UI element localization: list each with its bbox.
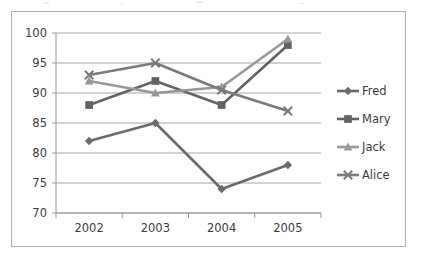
y-axis-tick-labels: 100959085807570 [25,26,56,220]
legend-item-alice[interactable]: Alice [337,168,390,182]
scan-artifact [196,1,203,3]
series-line [89,123,288,189]
x-tick-label: 2003 [141,221,170,235]
y-tick-label: 70 [32,206,47,220]
y-tick-label: 95 [32,56,47,70]
series-fred [85,119,292,193]
gridlines [56,33,321,213]
x-tick-label: 2002 [74,221,103,235]
marker-diamond [344,87,352,95]
series-line [89,45,288,105]
legend-item-fred[interactable]: Fred [337,84,387,98]
line-chart-plot: 100959085807570 2002200320042005 FredMar… [12,12,405,246]
marker-diamond [85,137,93,145]
scan-artifact [120,4,123,5]
marker-square [85,101,93,109]
legend-item-mary[interactable]: Mary [337,112,391,126]
legend-label: Mary [362,112,391,126]
marker-square [218,101,226,109]
x-axis [56,213,321,218]
scan-artifact [44,2,49,4]
x-tick-label: 2004 [207,221,236,235]
legend-item-jack[interactable]: Jack [337,140,386,154]
x-tick-label: 2005 [273,221,302,235]
x-axis-tick-labels: 2002200320042005 [74,221,302,235]
y-tick-label: 100 [25,26,47,40]
series-mary [85,41,291,109]
chart-frame: 100959085807570 2002200320042005 FredMar… [11,11,406,247]
series-line [89,39,288,93]
legend-label: Fred [362,84,387,98]
scan-artifact [300,3,304,4]
series-jack [85,35,293,97]
marker-square [152,77,160,85]
chart-legend: FredMaryJackAlice [337,84,391,182]
y-tick-label: 90 [32,86,47,100]
legend-label: Alice [362,168,390,182]
y-tick-label: 75 [32,176,47,190]
legend-label: Jack [361,140,386,154]
chart-container: 100959085807570 2002200320042005 FredMar… [0,0,421,260]
marker-triangle [283,35,292,43]
y-tick-label: 85 [32,116,47,130]
marker-diamond [284,161,292,169]
y-tick-label: 80 [32,146,47,160]
marker-square [344,115,352,123]
data-series-group [85,35,293,194]
